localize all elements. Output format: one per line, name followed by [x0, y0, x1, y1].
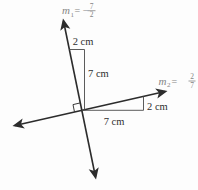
- upper-rise-label: 7 cm: [88, 68, 109, 79]
- lower-run-label: 7 cm: [104, 116, 125, 127]
- slope2-subscript: 2: [167, 81, 171, 89]
- lower-rise-label: 2 cm: [147, 101, 168, 112]
- slope-label-m1: m 1 = − 7 2: [62, 2, 96, 19]
- slope1-denominator: 2: [90, 10, 94, 19]
- slope1-variable: m: [62, 4, 70, 16]
- slope-label-m2: m 2 = 2 7: [159, 72, 196, 89]
- slope2-relation: =: [172, 76, 178, 87]
- upper-run-label: 2 cm: [73, 36, 94, 47]
- line-m2: [15, 92, 165, 126]
- slope2-denominator: 7: [190, 81, 194, 90]
- slope1-relation: = −: [75, 5, 89, 16]
- perpendicular-lines-diagram: 2 cm 7 cm 7 cm 2 cm m 1 = − 7 2 m 2 = 2 …: [0, 0, 198, 190]
- slope2-variable: m: [159, 75, 167, 87]
- diagram-canvas: 2 cm 7 cm 7 cm 2 cm m 1 = − 7 2 m 2 = 2 …: [0, 0, 198, 190]
